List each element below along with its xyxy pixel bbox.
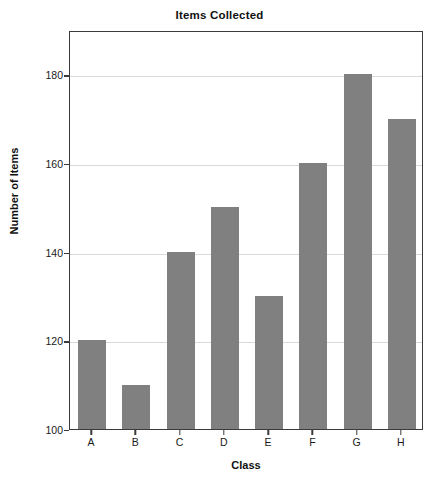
- bar: [211, 207, 239, 429]
- x-axis-tick-label: H: [381, 436, 421, 448]
- x-axis-tick-mark: [267, 430, 268, 435]
- x-axis-tick-mark: [223, 430, 224, 435]
- y-axis-tick-label: 140: [33, 247, 63, 259]
- bar: [122, 385, 150, 429]
- y-axis-tick-labels: 100120140160180: [30, 31, 63, 430]
- plot-area: [70, 32, 422, 429]
- bar: [167, 252, 195, 429]
- x-axis-tick-label: C: [160, 436, 200, 448]
- plot-frame: [69, 31, 423, 430]
- bars-layer: [70, 32, 422, 429]
- y-axis-title: Number of Items: [8, 131, 20, 251]
- y-axis-tick-label: 100: [33, 424, 63, 436]
- x-axis-tick-labels: ABCDEFGH: [69, 436, 423, 452]
- x-axis-tick-label: B: [115, 436, 155, 448]
- x-axis-tick-label: D: [204, 436, 244, 448]
- y-axis-tick-label: 120: [33, 335, 63, 347]
- x-axis-tick-mark: [400, 430, 401, 435]
- x-axis-tick-label: G: [337, 436, 377, 448]
- bar: [344, 74, 372, 429]
- x-axis-tick-label: F: [292, 436, 332, 448]
- bar: [299, 163, 327, 429]
- x-axis-tick-mark: [179, 430, 180, 435]
- bar: [78, 340, 106, 429]
- x-axis-tick-mark: [135, 430, 136, 435]
- x-axis-tick-label: A: [71, 436, 111, 448]
- x-axis-tick-mark: [312, 430, 313, 435]
- bar: [255, 296, 283, 429]
- bar: [388, 119, 416, 429]
- y-axis-tick-label: 160: [33, 158, 63, 170]
- chart-title: Items Collected: [0, 9, 439, 21]
- x-axis-tick-mark: [90, 430, 91, 435]
- bar-chart: Items Collected Number of Items 10012014…: [0, 0, 439, 480]
- x-axis-tick-mark: [356, 430, 357, 435]
- x-axis-tick-label: E: [248, 436, 288, 448]
- x-axis-title: Class: [69, 459, 423, 471]
- y-axis-tick-label: 180: [33, 69, 63, 81]
